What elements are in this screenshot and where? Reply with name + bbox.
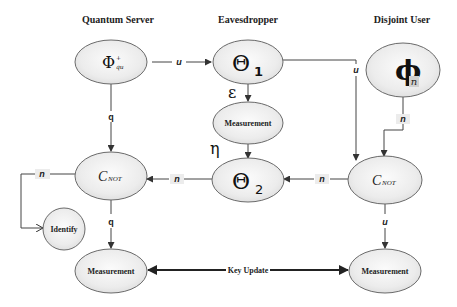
cnot-right-main: C xyxy=(372,173,382,188)
phin-sub: n xyxy=(411,76,417,87)
node-eav-measurement: Measurement xyxy=(213,102,283,144)
node-identify: Identify xyxy=(43,208,85,250)
edge-phin-cnot-right-arrow xyxy=(384,124,403,156)
node-theta2: Θ 2 xyxy=(212,158,284,202)
edge-label-u: u xyxy=(353,65,359,75)
edge-label-q: q xyxy=(108,217,114,227)
eav-measurement-label: Measurement xyxy=(225,119,272,128)
node-cnot-right: C NOT xyxy=(348,156,422,204)
edge-label-q: q xyxy=(108,112,114,122)
edge-cnot-left-identify-arrow xyxy=(21,174,43,228)
measurement-left-label: Measurement xyxy=(88,267,135,276)
edge-label-n: n xyxy=(39,169,45,179)
node-theta1: Θ 1 xyxy=(213,40,283,84)
edge-label-n: n xyxy=(174,174,180,184)
column-title-eavesdropper: Eavesdropper xyxy=(218,14,278,25)
cnot-right-sub: NOT xyxy=(381,179,397,187)
edge-label-n: n xyxy=(400,114,406,124)
key-update-label: Key Update xyxy=(228,266,269,275)
phi-sup: + xyxy=(116,54,121,61)
theta2-symbol: Θ xyxy=(232,169,250,194)
edge-theta1-cnot-right xyxy=(283,60,356,64)
identify-label: Identify xyxy=(50,225,77,234)
theta2-sub: 2 xyxy=(255,182,263,197)
theta1-symbol: Θ xyxy=(232,51,250,76)
epsilon-label: ε xyxy=(228,83,236,102)
cnot-left-main: C xyxy=(98,169,108,184)
eta-label: η xyxy=(210,139,220,158)
edge-label-u: u xyxy=(176,57,182,67)
column-title-quantum-server: Quantum Server xyxy=(82,14,155,25)
phi-symbol: Φ xyxy=(102,53,115,72)
cnot-left-sub: NOT xyxy=(107,175,123,183)
phi-sub: qu xyxy=(116,63,124,71)
node-measurement-left: Measurement xyxy=(75,249,147,293)
node-cnot-left: C NOT xyxy=(75,152,147,200)
edge-label-n: n xyxy=(319,174,325,184)
measurement-right-label: Measurement xyxy=(362,267,409,276)
edge-label-u: u xyxy=(382,217,388,227)
node-phi-n: ϕ n xyxy=(366,43,440,97)
protocol-diagram: Quantum Server Eavesdropper Disjoint Use… xyxy=(0,0,457,307)
column-title-disjoint-user: Disjoint User xyxy=(374,14,431,25)
theta1-sub: 1 xyxy=(254,64,263,79)
node-measurement-right: Measurement xyxy=(349,249,421,293)
node-phi-qu: Φ + qu xyxy=(75,40,147,84)
